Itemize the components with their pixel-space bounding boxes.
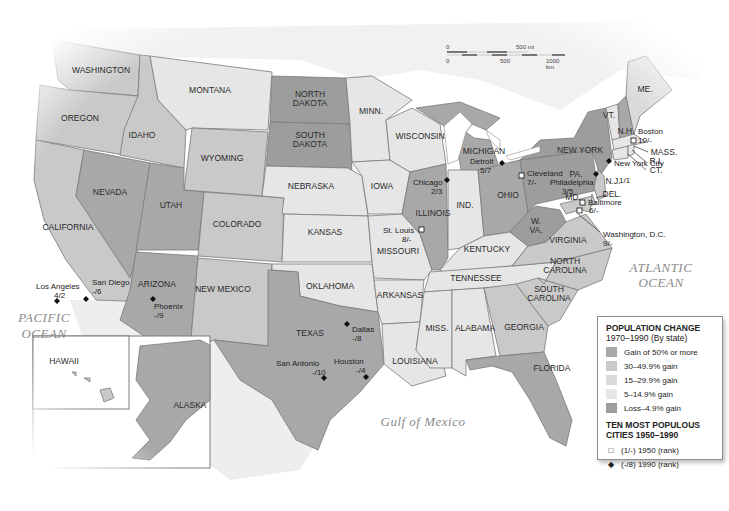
marker-washington-dc xyxy=(577,208,582,213)
svg-text:-/8: -/8 xyxy=(352,334,362,343)
legend-label: Loss–4.9% gain xyxy=(624,404,681,413)
label-iowa: IOWA xyxy=(371,181,394,191)
label-washington: WASHINGTON xyxy=(72,65,130,75)
scale-bar-km xyxy=(447,54,565,56)
label-hawaii: HAWAII xyxy=(49,356,79,366)
svg-text:-/6: -/6 xyxy=(92,287,102,296)
legend-symbol-1950: □(1/-) 1950 (rank) xyxy=(606,445,722,455)
svg-text:San Diego: San Diego xyxy=(92,278,130,287)
label-idaho: IDAHO xyxy=(129,130,156,140)
label-arkansas: ARKANSAS xyxy=(377,290,424,300)
label-south-dakota-2: DAKOTA xyxy=(293,139,328,149)
svg-text:9/-: 9/- xyxy=(603,239,613,248)
svg-text:Boston: Boston xyxy=(638,127,663,136)
svg-text:1/1: 1/1 xyxy=(619,176,631,185)
label-nevada: NEVADA xyxy=(93,187,128,197)
label-north-carolina-2: CAROLINA xyxy=(543,265,587,275)
legend-subtitle: 1970–1990 (By state) xyxy=(606,333,722,343)
legend-label: (1/-) 1950 (rank) xyxy=(621,446,679,455)
scale-mi-label: 500 mi xyxy=(516,44,534,50)
label-montana: MONTANA xyxy=(189,85,231,95)
legend: POPULATION CHANGE 1970–1990 (By state) G… xyxy=(597,316,723,460)
svg-text:Phoenix: Phoenix xyxy=(154,302,183,311)
svg-text:5/7: 5/7 xyxy=(480,166,492,175)
label-arizona: ARIZONA xyxy=(138,279,176,289)
svg-text:7/-: 7/- xyxy=(527,178,537,187)
label-new-hampshire: N.H. xyxy=(618,126,635,136)
atlantic-ocean-label: ATLANTIC xyxy=(629,260,693,275)
legend-label: Gain of 50% or more xyxy=(624,348,698,357)
label-florida: FLORIDA xyxy=(534,363,571,373)
legend-label: 30–49.9% gain xyxy=(624,362,677,371)
label-louisiana: LOUISIANA xyxy=(392,356,438,366)
label-ohio: OHIO xyxy=(497,190,519,200)
label-wyoming: WYOMING xyxy=(201,153,244,163)
label-new-york: NEW YORK xyxy=(557,145,603,155)
marker-boston xyxy=(631,138,636,143)
svg-text:2/3: 2/3 xyxy=(431,187,443,196)
marker-cleveland xyxy=(519,173,524,178)
legend-item-gain-50: Gain of 50% or more xyxy=(606,347,722,357)
label-minnesota: MINN. xyxy=(359,106,383,116)
label-wisconsin: WISCONSIN xyxy=(395,131,444,141)
legend-title: POPULATION CHANGE xyxy=(606,323,722,333)
scale-bar-mi xyxy=(447,51,527,53)
label-missouri: MISSOURI xyxy=(377,246,419,256)
legend-cities-title: TEN MOST POPULOUS xyxy=(606,420,722,430)
label-new-mexico: NEW MEXICO xyxy=(195,284,251,294)
svg-text:10/-: 10/- xyxy=(638,136,652,145)
legend-cities-title-2: CITIES 1950–1990 xyxy=(606,430,722,440)
label-illinois: ILLINOIS xyxy=(416,208,451,218)
label-maine: ME. xyxy=(637,84,652,94)
svg-text:-/9: -/9 xyxy=(154,311,164,320)
marker-baltimore xyxy=(580,200,585,205)
label-georgia: GEORGIA xyxy=(504,322,544,332)
label-alabama: ALABAMA xyxy=(455,323,495,333)
svg-text:6/-: 6/- xyxy=(589,206,599,215)
label-kentucky: KENTUCKY xyxy=(464,244,511,254)
label-colorado: COLORADO xyxy=(213,219,262,229)
scale-km-label: 1000 km xyxy=(546,58,566,70)
svg-text:Houston: Houston xyxy=(334,357,364,366)
svg-text:Philadelphia: Philadelphia xyxy=(550,178,594,187)
svg-text:4/2: 4/2 xyxy=(54,291,66,300)
pacific-ocean-label: PACIFIC xyxy=(17,310,70,325)
svg-text:New York City: New York City xyxy=(614,159,664,168)
legend-item-gain-5: 5–14.9% gain xyxy=(606,389,722,399)
legend-label: 5–14.9% gain xyxy=(624,390,673,399)
label-south-carolina-2: CAROLINA xyxy=(527,293,571,303)
svg-text:8/-: 8/- xyxy=(402,235,412,244)
svg-text:3/5: 3/5 xyxy=(562,187,574,196)
atlantic-ocean-label-2: OCEAN xyxy=(638,275,684,290)
svg-text:Detroit: Detroit xyxy=(470,157,494,166)
svg-text:Washington, D.C.: Washington, D.C. xyxy=(603,230,665,239)
legend-item-gain-30: 30–49.9% gain xyxy=(606,361,722,371)
legend-item-loss: Loss–4.9% gain xyxy=(606,403,722,413)
scale-km-zero: 0 xyxy=(446,58,449,64)
label-virginia: VIRGINIA xyxy=(549,235,587,245)
swatch-gain-15 xyxy=(606,375,617,385)
svg-text:Los Angeles: Los Angeles xyxy=(36,282,80,291)
label-nebraska: NEBRASKA xyxy=(288,181,335,191)
svg-text:-/4: -/4 xyxy=(356,366,366,375)
svg-text:San Antonio: San Antonio xyxy=(276,359,320,368)
label-oregon: OREGON xyxy=(61,113,99,123)
svg-text:St. Louis: St. Louis xyxy=(383,226,414,235)
swatch-gain-30 xyxy=(606,361,617,371)
label-michigan: MICHIGAN xyxy=(463,146,506,156)
label-utah: UTAH xyxy=(160,200,183,210)
svg-text:Dallas: Dallas xyxy=(352,325,374,334)
legend-label: 15–29.9% gain xyxy=(624,376,677,385)
swatch-gain-5 xyxy=(606,389,617,399)
label-kansas: KANSAS xyxy=(308,227,343,237)
label-west-virginia-2: VA. xyxy=(529,225,542,235)
gulf-of-mexico-label: Gulf of Mexico xyxy=(381,414,466,429)
label-oklahoma: OKLAHOMA xyxy=(306,281,355,291)
scale-mi-zero: 0 xyxy=(446,44,449,50)
label-indiana: IND. xyxy=(457,200,474,210)
swatch-loss xyxy=(606,403,617,413)
swatch-gain-50 xyxy=(606,347,617,357)
svg-text:Cleveland: Cleveland xyxy=(527,169,563,178)
label-texas: TEXAS xyxy=(296,328,324,338)
label-alaska: ALASKA xyxy=(173,400,206,410)
